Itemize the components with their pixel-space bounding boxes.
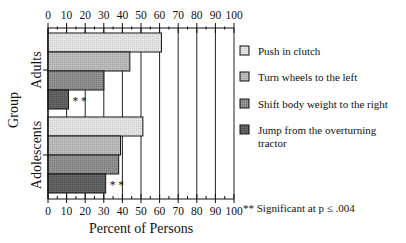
legend-swatch-texture <box>240 46 249 55</box>
bottom-tick-label: 90 <box>210 205 222 217</box>
bottom-tick-label: 80 <box>191 205 203 217</box>
bar-texture <box>48 90 68 109</box>
top-tick-label: 10 <box>61 9 73 21</box>
top-tick-label: 70 <box>172 9 184 21</box>
bar-texture <box>48 33 161 52</box>
legend-swatch-texture <box>240 125 249 134</box>
y-axis-title: Group <box>6 92 21 128</box>
bottom-tick-label: 60 <box>154 205 166 217</box>
bottom-tick-label: 100 <box>225 205 243 217</box>
bar-texture <box>48 52 130 71</box>
top-tick-label: 40 <box>117 9 129 21</box>
legend-label: Push in clutch <box>258 45 321 57</box>
bar-texture <box>48 155 119 174</box>
legend-label-line2: tractor <box>258 137 287 149</box>
top-tick-label: 50 <box>135 9 147 21</box>
bottom-tick-label: 50 <box>135 205 147 217</box>
bar-texture <box>48 71 104 90</box>
top-tick-label: 20 <box>79 9 91 21</box>
x-axis-title: Percent of Persons <box>89 221 193 236</box>
group-label-adolescents: Adolescents <box>29 121 44 189</box>
bar-texture <box>48 136 121 155</box>
legend-label: Shift body weight to the right <box>258 98 388 110</box>
top-x-axis: 0102030405060708090100 <box>45 9 243 33</box>
bars-group: * ** * <box>48 33 161 193</box>
top-tick-label: 90 <box>210 9 222 21</box>
bottom-tick-label: 10 <box>61 205 73 217</box>
bar-texture <box>48 174 106 193</box>
top-tick-label: 60 <box>154 9 166 21</box>
legend-swatch-texture <box>240 99 249 108</box>
legend-swatch-texture <box>240 72 249 81</box>
group-label-adults: Adults <box>29 51 44 88</box>
bottom-tick-label: 20 <box>79 205 91 217</box>
bottom-tick-label: 70 <box>172 205 184 217</box>
top-tick-label: 0 <box>45 9 51 21</box>
bottom-tick-label: 40 <box>117 205 129 217</box>
significance-marker: * * <box>110 179 125 191</box>
legend-label: Turn wheels to the left <box>258 71 357 83</box>
significance-marker: * * <box>72 95 87 107</box>
bar-texture <box>48 117 143 136</box>
top-tick-label: 100 <box>225 9 243 21</box>
bar-chart: * ** * 0102030405060708090100 0102030405… <box>0 0 406 243</box>
bottom-tick-label: 0 <box>45 205 51 217</box>
significance-footnote: ** Significant at p ≤ .004 <box>243 202 355 214</box>
legend: Push in clutchTurn wheels to the leftShi… <box>240 45 388 149</box>
bottom-x-axis: 0102030405060708090100 <box>45 194 243 217</box>
top-tick-label: 80 <box>191 9 203 21</box>
top-tick-label: 30 <box>98 9 110 21</box>
legend-label: Jump from the overturning <box>258 124 377 136</box>
bottom-tick-label: 30 <box>98 205 110 217</box>
